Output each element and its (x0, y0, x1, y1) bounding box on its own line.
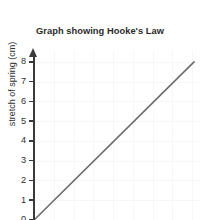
chart-figure: Graph showing Hooke's Law stretch of spr… (0, 0, 200, 220)
y-axis-tick-label: 5 (6, 117, 26, 126)
y-axis-tick-mark (29, 61, 35, 63)
y-axis-tick-mark (29, 81, 35, 83)
y-axis-tick-mark (29, 120, 35, 122)
y-axis-tick-mark (29, 160, 35, 162)
data-line-layer (34, 50, 200, 220)
data-line-series-0 (34, 62, 194, 220)
y-axis-tick-label: 1 (6, 196, 26, 205)
y-axis-tick-label: 3 (6, 156, 26, 165)
y-axis-tick-label: 0 (6, 215, 26, 220)
y-axis-tick-label: 7 (6, 77, 26, 86)
y-axis-tick-mark (29, 101, 35, 103)
y-axis-tick-mark (29, 140, 35, 142)
y-axis-tick-mark (29, 199, 35, 201)
y-axis-tick-label: 6 (6, 97, 26, 106)
y-axis-arrow-icon (29, 48, 37, 57)
y-axis-tick-mark (29, 219, 35, 220)
chart-title: Graph showing Hooke's Law (0, 26, 200, 36)
plot-area (34, 50, 200, 220)
y-axis-tick-label: 8 (6, 57, 26, 66)
y-axis-tick-label: 2 (6, 176, 26, 185)
y-axis-tick-mark (29, 180, 35, 182)
y-axis-tick-label: 4 (6, 136, 26, 145)
